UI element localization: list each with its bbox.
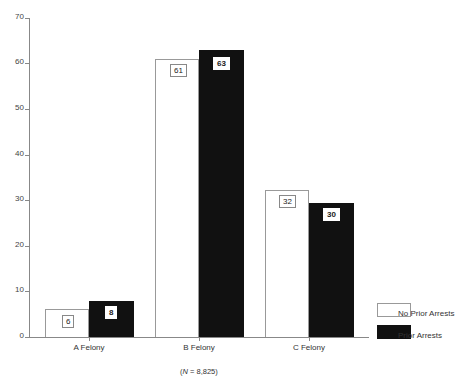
y-tick-label: 70	[4, 12, 24, 21]
y-tick-label: 10	[4, 285, 24, 294]
legend-label: No Prior Arrests	[398, 309, 454, 318]
bar-no-prior-b-felony	[155, 59, 199, 337]
y-tick	[25, 337, 29, 338]
bar-prior-c-felony	[309, 203, 354, 337]
y-tick-label: 40	[4, 149, 24, 158]
y-tick-label: 30	[4, 194, 24, 203]
y-tick	[25, 200, 29, 201]
value-label: 32	[279, 195, 296, 208]
y-tick-label: 60	[4, 57, 24, 66]
y-tick	[25, 291, 29, 292]
x-tick	[199, 337, 200, 341]
value-label: 6	[62, 315, 74, 328]
x-tick	[89, 337, 90, 341]
y-tick-label: 0	[4, 331, 24, 340]
value-label: 63	[213, 57, 230, 70]
y-tick	[25, 109, 29, 110]
bar-no-prior-c-felony	[265, 190, 309, 337]
x-category-label: A Felony	[44, 343, 134, 352]
x-tick	[309, 337, 310, 341]
x-category-label: B Felony	[154, 343, 244, 352]
x-category-label: C Felony	[264, 343, 354, 352]
value-label: 30	[323, 208, 340, 221]
y-tick	[25, 246, 29, 247]
legend-label: Prior Arrests	[398, 331, 442, 340]
y-tick	[25, 18, 29, 19]
sample-size-note: (N = 8,825)	[180, 367, 218, 376]
value-label: 61	[170, 64, 187, 77]
value-label: 8	[105, 306, 117, 319]
note-rest: = 8,825)	[188, 367, 218, 376]
y-tick-label: 20	[4, 240, 24, 249]
y-axis	[29, 18, 30, 338]
y-tick-label: 50	[4, 103, 24, 112]
y-tick	[25, 155, 29, 156]
y-tick	[25, 63, 29, 64]
bar-prior-b-felony	[199, 50, 244, 337]
